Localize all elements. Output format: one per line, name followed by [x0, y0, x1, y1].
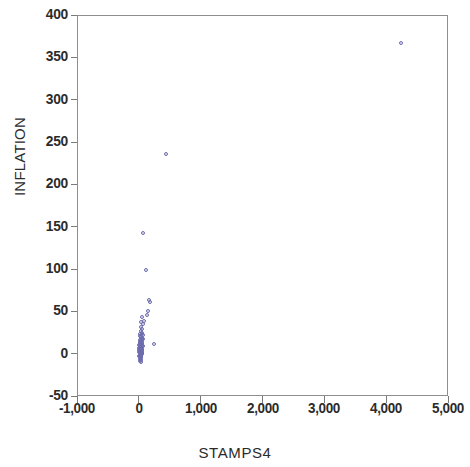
plot-area: [77, 15, 448, 396]
y-axis-tick-label: 350: [15, 48, 68, 64]
x-axis-title: STAMPS4: [0, 444, 470, 461]
x-axis-tick-mark: [324, 396, 325, 403]
x-axis-tick-label: 5,000: [411, 400, 470, 416]
data-point: [144, 268, 148, 272]
y-axis-tick-label: 400: [15, 6, 68, 22]
scatter-chart-figure: -50050100150200250300350400 -1,00001,000…: [0, 0, 470, 467]
data-point: [148, 300, 152, 304]
x-axis-tick-mark: [448, 396, 449, 403]
data-point: [140, 315, 144, 319]
y-axis-tick-label: 50: [15, 302, 68, 318]
data-point: [399, 41, 403, 45]
x-axis-tick-mark: [386, 396, 387, 403]
data-point: [164, 152, 168, 156]
x-axis-tick-mark: [262, 396, 263, 403]
data-points-layer: [78, 16, 447, 395]
data-point: [139, 360, 143, 364]
data-point: [152, 342, 156, 346]
y-axis-tick-label: 0: [15, 345, 68, 361]
data-point: [141, 231, 145, 235]
x-axis-tick-mark: [77, 396, 78, 403]
y-axis-title: INFLATION: [11, 77, 28, 237]
x-axis-tick-mark: [200, 396, 201, 403]
data-point: [145, 313, 149, 317]
y-axis-tick-label: 100: [15, 260, 68, 276]
x-axis-tick-mark: [138, 396, 139, 403]
